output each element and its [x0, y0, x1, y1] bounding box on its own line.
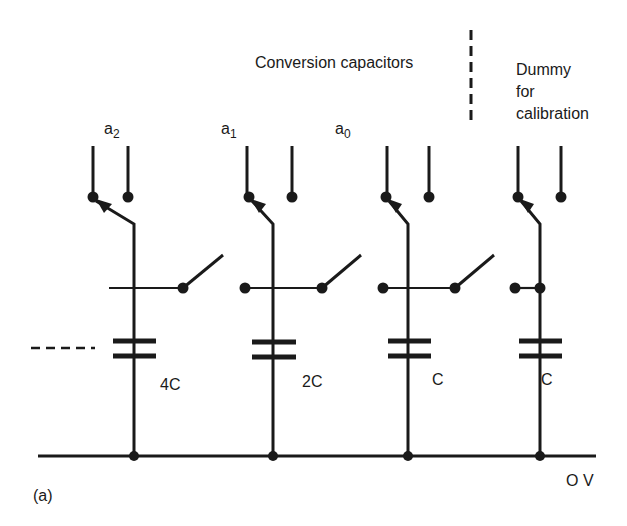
- bit-label-a1: a1: [221, 120, 237, 141]
- column-a0: C: [378, 146, 495, 455]
- capacitor-label-4c: 4C: [160, 376, 180, 393]
- conversion-capacitors-label: Conversion capacitors: [255, 54, 413, 71]
- bit-label-a2: a2: [104, 120, 120, 141]
- switch-arrow-icon: [388, 199, 402, 213]
- rail-junction-dot: [403, 451, 413, 461]
- rail-junction-dot: [268, 451, 278, 461]
- switch-arrow-icon: [520, 199, 534, 213]
- column-a1: 2C: [240, 146, 362, 455]
- capacitor-label-c: C: [432, 371, 444, 388]
- capacitor-label-2c: 2C: [302, 373, 322, 390]
- capacitor-label-c-dummy: C: [541, 371, 553, 388]
- figure-label: (a): [33, 487, 53, 504]
- switch-contact-dot: [123, 192, 134, 203]
- column-a2: 4C: [88, 146, 224, 455]
- ground-label: O V: [566, 472, 594, 489]
- rail-junction-dot: [535, 451, 545, 461]
- bit-label-a0: a0: [335, 120, 351, 141]
- dummy-label-line-2: for: [516, 83, 535, 100]
- rail-junction-dot: [129, 451, 139, 461]
- dummy-label-line-1: Dummy: [516, 61, 571, 78]
- switch-arrow-icon: [251, 199, 266, 213]
- capacitor-dac-diagram: Conversion capacitors Dummy for calibrat…: [0, 0, 627, 526]
- dummy-label-line-3: calibration: [516, 105, 589, 122]
- column-dummy: C: [510, 146, 567, 455]
